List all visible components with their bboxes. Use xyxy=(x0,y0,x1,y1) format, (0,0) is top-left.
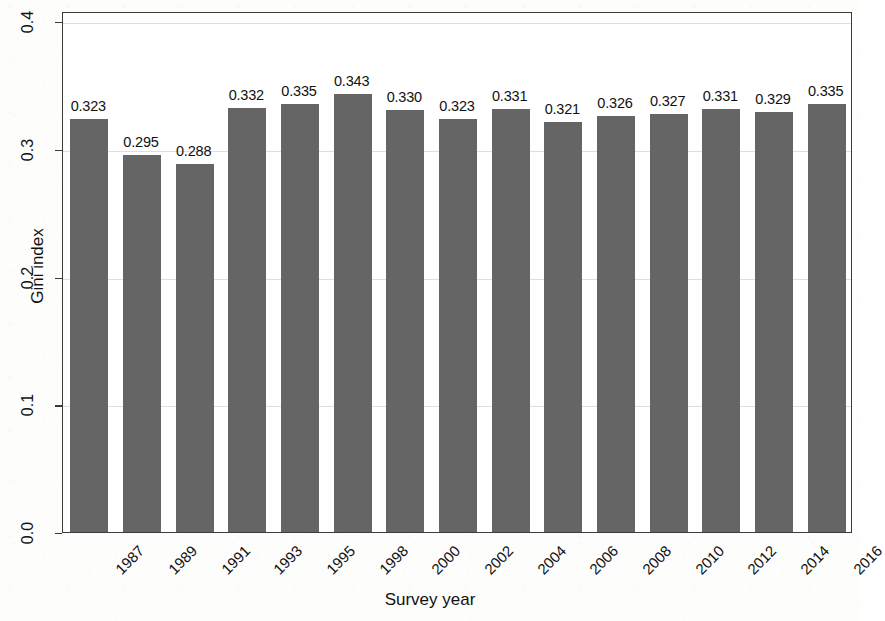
bar-value-label-2002: 0.323 xyxy=(427,98,487,114)
bar-value-label-1987: 0.323 xyxy=(58,98,118,114)
bar-value-label-1991: 0.288 xyxy=(164,143,224,159)
y-tick-mark-0_3 xyxy=(55,150,62,151)
bar-2008 xyxy=(597,116,635,532)
bar-2004 xyxy=(492,109,530,532)
bar-2010 xyxy=(650,114,688,532)
bar-value-label-2016: 0.335 xyxy=(796,83,856,99)
bar-2006 xyxy=(544,122,582,532)
x-tick-label-1987: 1987 xyxy=(112,542,148,578)
bar-value-label-2012: 0.331 xyxy=(690,88,750,104)
bar-2000 xyxy=(386,110,424,532)
bar-value-label-1995: 0.335 xyxy=(269,83,329,99)
x-tick-label-2004: 2004 xyxy=(533,542,569,578)
bar-value-label-2006: 0.321 xyxy=(532,101,592,117)
y-tick-mark-0_2 xyxy=(55,278,62,279)
x-tick-label-2016: 2016 xyxy=(849,542,885,578)
bar-2016 xyxy=(808,104,846,532)
x-tick-label-2010: 2010 xyxy=(691,542,727,578)
x-tick-label-1995: 1995 xyxy=(323,542,359,578)
x-tick-label-2012: 2012 xyxy=(744,542,780,578)
bar-value-label-1998: 0.343 xyxy=(322,73,382,89)
bar-2002 xyxy=(439,119,477,532)
x-tick-label-2014: 2014 xyxy=(797,542,833,578)
y-tick-label-0_3: 0.3 xyxy=(19,128,37,172)
x-tick-label-2008: 2008 xyxy=(639,542,675,578)
x-tick-label-2006: 2006 xyxy=(586,542,622,578)
bar-1991 xyxy=(176,164,214,532)
y-tick-label-0_4: 0.4 xyxy=(19,0,37,44)
x-tick-label-2002: 2002 xyxy=(481,542,517,578)
y-tick-label-0_2: 0.2 xyxy=(19,256,37,300)
bar-value-label-2010: 0.327 xyxy=(638,93,698,109)
x-tick-label-1993: 1993 xyxy=(270,542,306,578)
x-tick-label-1991: 1991 xyxy=(217,542,253,578)
y-tick-mark-0_0 xyxy=(55,533,62,534)
y-tick-label-0_0: 0.0 xyxy=(19,511,37,555)
bar-2012 xyxy=(702,109,740,532)
bar-value-label-1993: 0.332 xyxy=(216,87,276,103)
y-tick-mark-0_1 xyxy=(55,405,62,406)
bar-2014 xyxy=(755,112,793,532)
bar-value-label-2008: 0.326 xyxy=(585,95,645,111)
x-axis-title: Survey year xyxy=(0,590,860,610)
y-tick-label-0_1: 0.1 xyxy=(19,383,37,427)
bar-1995 xyxy=(281,104,319,532)
bar-value-label-2004: 0.331 xyxy=(480,88,540,104)
x-tick-label-1989: 1989 xyxy=(165,542,201,578)
bar-value-label-1989: 0.295 xyxy=(111,134,171,150)
bar-value-label-2000: 0.330 xyxy=(374,89,434,105)
bar-1987 xyxy=(70,119,108,532)
x-tick-label-2000: 2000 xyxy=(428,542,464,578)
x-tick-label-1998: 1998 xyxy=(375,542,411,578)
gridline-0_4 xyxy=(63,23,851,24)
bar-value-label-2014: 0.329 xyxy=(743,91,803,107)
bar-1989 xyxy=(123,155,161,532)
bar-1993 xyxy=(228,108,266,532)
bar-1998 xyxy=(334,94,372,532)
y-tick-mark-0_4 xyxy=(55,22,62,23)
